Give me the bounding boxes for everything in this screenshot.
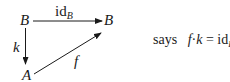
node-A: A — [22, 68, 31, 82]
label-id-B: idB — [55, 4, 73, 21]
node-B-top-left: B — [20, 13, 29, 28]
node-B-top-right: B — [104, 13, 113, 28]
arrow-diagonal — [34, 33, 101, 74]
label-f: f — [74, 54, 78, 69]
caption-equation: says f·k = idB. — [153, 33, 230, 49]
label-k: k — [13, 40, 20, 55]
